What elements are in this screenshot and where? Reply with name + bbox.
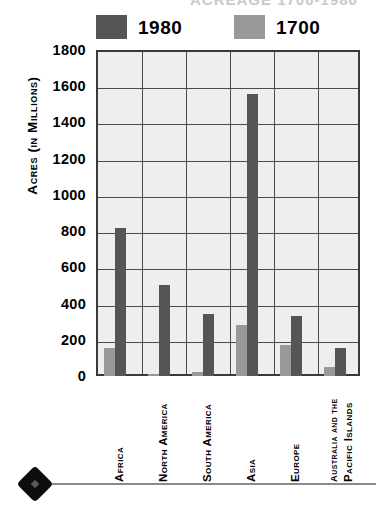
chart-title-cropped: ACREAGE 1700-1980 bbox=[190, 0, 376, 9]
legend-swatch-1980 bbox=[96, 15, 127, 39]
gridline-horizontal bbox=[98, 88, 358, 89]
legend-entry-1980: 1980 bbox=[96, 12, 182, 42]
gridline-vertical bbox=[186, 52, 187, 374]
gridline-vertical bbox=[274, 52, 275, 374]
legend-swatch-1700 bbox=[234, 15, 265, 39]
y-axis-tick-label: 400 bbox=[61, 296, 86, 312]
y-axis-tick-label: 1600 bbox=[53, 78, 86, 94]
legend-label-1700: 1700 bbox=[276, 18, 320, 37]
y-axis-tick-label: 1000 bbox=[53, 187, 86, 203]
y-axis-tick-label: 1800 bbox=[53, 42, 86, 58]
gridline-horizontal bbox=[98, 161, 358, 162]
y-axis-tick-label: 1200 bbox=[53, 151, 86, 167]
chart-title-text: ACREAGE 1700-1980 bbox=[190, 0, 376, 8]
gridline-vertical bbox=[230, 52, 231, 374]
y-axis-tick-label: 200 bbox=[61, 332, 86, 348]
y-axis-tick-label: 0 bbox=[78, 368, 86, 384]
decoration-rule bbox=[44, 483, 376, 485]
gridline-vertical bbox=[318, 52, 319, 374]
legend-entry-1700: 1700 bbox=[234, 12, 320, 42]
gridline-horizontal bbox=[98, 342, 358, 343]
gridline-horizontal bbox=[98, 124, 358, 125]
y-axis-tick-label: 1400 bbox=[53, 114, 86, 130]
y-axis-tick-label: 600 bbox=[61, 259, 86, 275]
legend-label-1980: 1980 bbox=[138, 18, 182, 37]
gridline-horizontal bbox=[98, 233, 358, 234]
gridline-horizontal bbox=[98, 306, 358, 307]
chart-legend: 1980 1700 bbox=[96, 12, 360, 42]
gridline-vertical bbox=[142, 52, 143, 374]
gridline-horizontal bbox=[98, 269, 358, 270]
plot-area bbox=[96, 50, 360, 376]
gridline-horizontal bbox=[98, 197, 358, 198]
y-axis-tick-label: 800 bbox=[61, 223, 86, 239]
y-axis-tick-labels: 180016001400120010008006004002000 bbox=[0, 50, 90, 376]
bottom-decoration bbox=[0, 470, 376, 500]
